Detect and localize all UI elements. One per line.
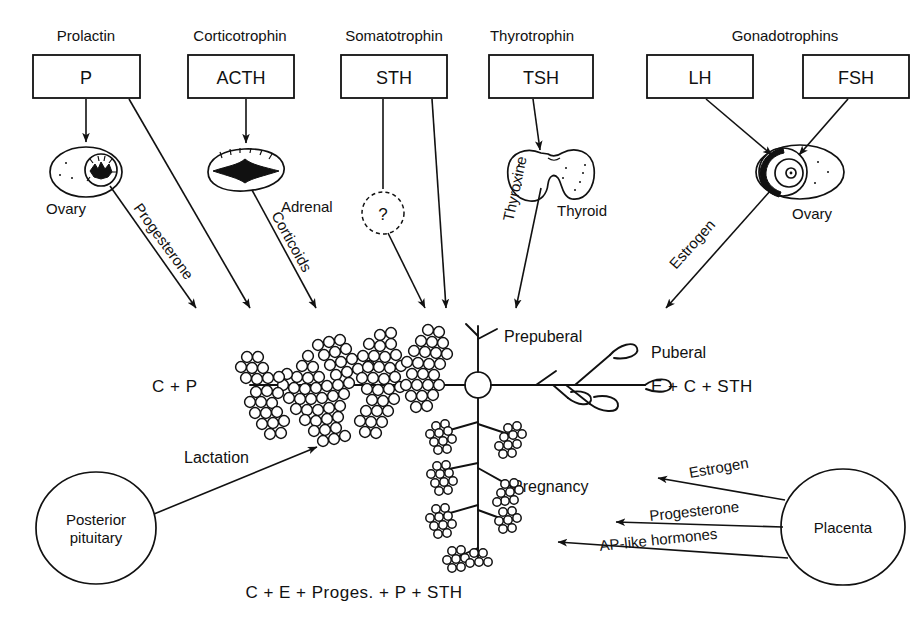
- hormone-group-corticotrophin: Corticotrophin ACTH: [188, 27, 294, 98]
- formula-pregnancy: C + E + Proges. + P + STH: [245, 583, 462, 602]
- endocrine-mammary-diagram: Prolactin P Corticotrophin ACTH Somatotr…: [0, 0, 921, 643]
- hormone-group-fsh: FSH: [803, 55, 909, 98]
- hormone-caption-corticotrophin: Corticotrophin: [193, 27, 286, 44]
- unknown-mediator-label: ?: [378, 205, 387, 224]
- hormone-box-label-tsh: TSH: [523, 68, 559, 88]
- hormone-box-label-sth: STH: [376, 68, 412, 88]
- hormone-group-somatotrophin: Somatotrophin STH: [341, 27, 447, 98]
- hormone-caption-somatotrophin: Somatotrophin: [345, 27, 443, 44]
- hormone-box-label-lh: LH: [688, 68, 711, 88]
- posterior-pituitary-line1: Posterior: [66, 511, 126, 528]
- nipple: [465, 372, 491, 398]
- posterior-pituitary-line2: pituitary: [70, 529, 123, 546]
- posterior-pituitary-body: [36, 472, 156, 584]
- hormone-caption-prolactin: Prolactin: [57, 27, 115, 44]
- stage-label-pregnancy: Pregnancy: [512, 478, 589, 495]
- formula-puberal: E + C + STH: [651, 377, 753, 396]
- hormone-box-label-acth: ACTH: [217, 68, 266, 88]
- source-posterior-pituitary: Posterior pituitary: [36, 472, 156, 584]
- hormone-box-label-fsh: FSH: [838, 68, 874, 88]
- ovum-nucleus: [790, 172, 793, 175]
- organ-label-thyroid: Thyroid: [557, 202, 607, 219]
- hormone-caption-thyrotrophin: Thyrotrophin: [490, 27, 574, 44]
- placenta-label: Placenta: [814, 519, 873, 536]
- organ-label-ovary-right: Ovary: [792, 205, 833, 222]
- stage-label-prepuberal: Prepuberal: [504, 328, 582, 345]
- label-lactation: Lactation: [184, 449, 249, 466]
- hormone-group-lh: LH: [647, 55, 753, 98]
- stage-label-puberal: Puberal: [651, 344, 706, 361]
- organ-label-ovary-left: Ovary: [46, 200, 87, 217]
- organ-label-adrenal: Adrenal: [281, 198, 333, 215]
- hormone-box-label-prolactin: P: [80, 68, 92, 88]
- hormone-caption-gonadotrophins: Gonadotrophins: [732, 27, 839, 44]
- source-placenta: Placenta: [781, 469, 905, 585]
- formula-lactation: C + P: [152, 377, 198, 396]
